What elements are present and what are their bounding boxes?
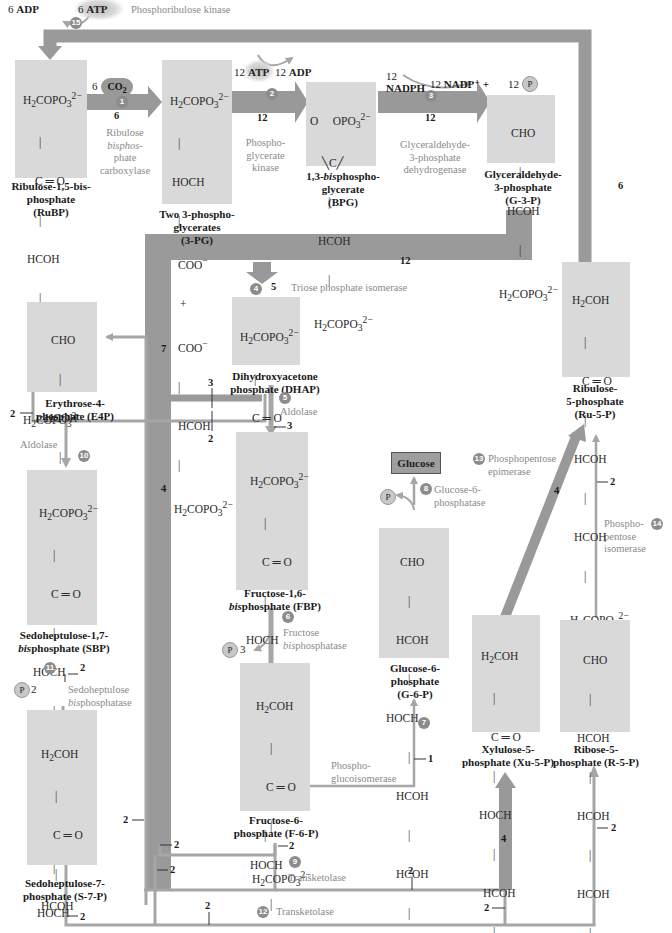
g3p-formula: CHO | HCOH | H2COPO32− bbox=[499, 101, 558, 330]
flux-dhap-in: 5 bbox=[271, 281, 276, 292]
enzyme-aldolase-5: Aldolase bbox=[280, 406, 317, 419]
rubp-name: Ribulose-1,5-bis- phosphate (RuBP) bbox=[5, 180, 97, 219]
enzyme-fructose-bisphosphatase: Fructose bisphosphatase bbox=[283, 627, 347, 652]
3pg-formula: H2COPO32− | HOCH | COO− + COO− | HCOH | … bbox=[170, 64, 233, 545]
step-marker-12: 12 bbox=[257, 906, 269, 918]
bpg-name: 1,3-bisphospho- glycerate (BPG) bbox=[300, 170, 386, 209]
flux-e4p-left: 2 bbox=[10, 408, 15, 419]
step-marker-6: 6 bbox=[282, 611, 294, 623]
r5p-formula: CHO | HCOH | HCOH | HCOH | H2COPO32− bbox=[571, 628, 630, 933]
calvin-cycle-diagram: 6 ADP 6 ATP 15 Phosphoribulose kinase H2… bbox=[0, 0, 672, 933]
enzyme-aldolase-10: Aldolase bbox=[20, 439, 57, 452]
flux-f6p-2a: 2 bbox=[174, 839, 179, 850]
step-marker-1: 1 bbox=[116, 96, 128, 108]
cofactor-atp-top: 6 ATP bbox=[78, 3, 107, 16]
flux-f6p-2c: 2 bbox=[289, 840, 294, 851]
flux-f6p-2b: 2 bbox=[170, 864, 175, 875]
step-marker-10: 10 bbox=[78, 450, 90, 462]
enzyme-transketolase-12: Transketolase bbox=[276, 906, 334, 919]
f6p-name: Fructose-6- phosphate (F-6-P) bbox=[230, 814, 322, 840]
fbp-name: Fructose-1,6- bisphosphate (FBP) bbox=[220, 587, 330, 613]
ru5p-formula: H2COH | C ═ O | HCOH | HCOH | H2COPO32− bbox=[570, 268, 629, 656]
flux-rubp-to-3pg: 6 bbox=[114, 110, 119, 121]
flux-mid-2: 2 bbox=[205, 900, 210, 911]
flux-thick-4: 4 bbox=[161, 483, 166, 494]
g6p-name: Glucose-6- phosphate (G-6-P) bbox=[370, 662, 460, 701]
enzyme-phosphoglycerate-kinase: Phospho- glycerate kinase bbox=[238, 137, 293, 175]
s7p-name: Sedoheptulose-7- phosphate (S-7-P) bbox=[15, 877, 115, 903]
enzyme-phosphopentose-epimerase: Phosphopentose epimerase bbox=[488, 453, 556, 478]
co2-badge: CO2 bbox=[101, 78, 133, 96]
pi-fbp-count: 3 bbox=[240, 643, 246, 656]
cofactor-adp-top: 6 ADP bbox=[8, 3, 39, 16]
pgk-adp: 12 ADP bbox=[275, 66, 311, 79]
nadp: 12 NADP⁺ + bbox=[430, 78, 489, 91]
flux-aldolase-3: 3 bbox=[287, 420, 292, 431]
enzyme-transketolase-9: Transketolase bbox=[288, 872, 346, 885]
flux-bottom: 2 bbox=[484, 902, 489, 913]
pi-sbp-count: 2 bbox=[31, 683, 37, 696]
r5p-name: Ribose-5- phosphate (R-5-P) bbox=[550, 743, 642, 769]
xu5p-formula: H2COH | C ═ O | HOCH | HCOH | H2COPO32− bbox=[479, 624, 540, 933]
flux-epimerase: 4 bbox=[554, 485, 559, 496]
step-marker-9: 9 bbox=[289, 856, 301, 868]
f6p-formula: H2COH | C ═ O | HOCH | HCOH | HCOH | H2C… bbox=[250, 674, 315, 933]
flux-3pg-to-bpg: 12 bbox=[257, 112, 268, 123]
enzyme-phosphoribulose-kinase: Phosphoribulose kinase bbox=[131, 4, 230, 17]
step-marker-2: 2 bbox=[266, 88, 278, 100]
step-marker-14: 14 bbox=[651, 518, 663, 530]
ru5p-name: Ribulose- 5-phosphate (Ru-5-P) bbox=[555, 382, 635, 421]
g6p-formula: CHO | HCOH | HOCH | HCOH | HCOH | H2COPO… bbox=[386, 530, 451, 933]
nadph: 12 NADPH bbox=[386, 70, 425, 94]
step-marker-13: 13 bbox=[473, 453, 485, 465]
phosphate-icon-g6p: P bbox=[380, 489, 396, 505]
step-marker-3: 3 bbox=[425, 90, 437, 102]
phosphate-icon-fbp: P bbox=[222, 642, 238, 658]
enzyme-glucose-6-phosphatase: Glucose-6- phosphatase bbox=[434, 484, 485, 509]
dhap-name: Dihydroxyacetone phosphate (DHAP) bbox=[225, 370, 325, 396]
enzyme-sedoheptulose-bisphosphatase: Sedoheptulose bisphosphatase bbox=[68, 684, 132, 709]
phosphate-icon: P bbox=[522, 76, 538, 92]
xu5p-name: Xylulose-5- phosphate (Xu-5-P) bbox=[462, 743, 554, 769]
flux-left-2: 2 bbox=[123, 814, 128, 825]
flux-xu5p: 4 bbox=[501, 833, 506, 844]
phosphate-icon-sbp: P bbox=[14, 682, 30, 698]
flux-ru5p-return: 6 bbox=[618, 180, 623, 191]
pgk-atp-label: ATP bbox=[248, 66, 269, 79]
bpg-formula: O OPO32− ╲C╱ | HCOH | H2COPO32− bbox=[310, 84, 373, 360]
sbp-name: Sedoheptulose-1,7- bisphosphate (SBP) bbox=[8, 629, 120, 655]
flux-r5p: 2 bbox=[611, 822, 616, 833]
3pg-name: Two 3-phospho- glycerates (3-PG) bbox=[150, 208, 244, 247]
enzyme-rubisco: Ribulose bisphos- phate carboxylase bbox=[95, 127, 155, 177]
flux-sbp: 2 bbox=[80, 662, 85, 673]
flux-g3p-loop: 12 bbox=[400, 255, 411, 266]
step-marker-5: 5 bbox=[279, 392, 291, 404]
flux-bpg-to-g3p: 12 bbox=[425, 112, 436, 123]
step-marker-4: 4 bbox=[250, 283, 262, 295]
pi-12-count: 12 bbox=[508, 78, 519, 91]
flux-transket-9: 2 bbox=[408, 865, 413, 876]
flux-s7p: 2 bbox=[80, 911, 85, 922]
glucose-box: Glucose bbox=[391, 452, 441, 474]
e4p-name: Erythrose-4- phosphate (E4P) bbox=[30, 397, 120, 423]
enzyme-gapdh: Glyceraldehyde- 3-phosphate dehydrogenas… bbox=[390, 139, 480, 177]
step-marker-8: 8 bbox=[420, 483, 432, 495]
g3p-name: Glyceraldehyde- 3-phosphate (G-3-P) bbox=[478, 168, 568, 207]
flux-left-thick: 7 bbox=[161, 343, 166, 354]
flux-dhap-branch: 3 bbox=[208, 377, 213, 388]
step-marker-15: 15 bbox=[70, 17, 82, 29]
co2-count: 6 bbox=[92, 80, 98, 93]
step-marker-11: 11 bbox=[44, 662, 56, 674]
flux-e4p-branch: 2 bbox=[208, 433, 213, 444]
enzyme-triose-phosphate-isomerase: Triose phosphate isomerase bbox=[291, 282, 407, 295]
